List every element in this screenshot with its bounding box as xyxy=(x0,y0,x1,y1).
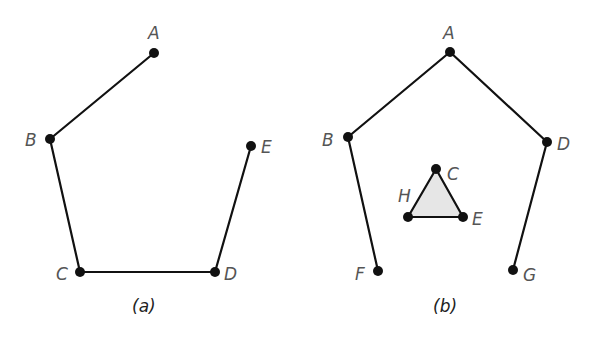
label-b-A: A xyxy=(442,23,455,43)
edge-a-DE xyxy=(215,146,251,272)
edge-a-BC xyxy=(50,139,80,272)
caption-a: (a) xyxy=(132,296,156,316)
node-a-B xyxy=(45,134,55,144)
edge-b-BF xyxy=(348,137,378,271)
edge-b-AD xyxy=(450,52,547,142)
edge-a-AB xyxy=(50,53,154,139)
label-b-G: G xyxy=(523,265,536,285)
label-b-F: F xyxy=(355,264,365,284)
node-b-E xyxy=(458,212,468,222)
caption-b: (b) xyxy=(433,296,457,316)
node-a-A xyxy=(149,48,159,58)
node-b-C xyxy=(431,164,441,174)
graph-figure: A B C D E (a) A B D F G C H E (b) xyxy=(0,0,593,341)
node-b-B xyxy=(343,132,353,142)
node-b-H xyxy=(403,212,413,222)
node-a-E xyxy=(246,141,256,151)
edge-b-AB xyxy=(348,52,450,137)
label-a-C: C xyxy=(56,264,68,284)
label-a-D: D xyxy=(224,264,237,284)
label-b-B: B xyxy=(322,130,334,150)
panel-a: A B C D E (a) xyxy=(25,23,272,316)
label-a-B: B xyxy=(25,130,37,150)
label-b-C: C xyxy=(447,164,459,184)
label-b-D: D xyxy=(557,134,570,154)
node-b-A xyxy=(445,47,455,57)
edge-b-DG xyxy=(513,142,547,270)
label-a-A: A xyxy=(147,23,160,43)
label-b-E: E xyxy=(472,209,483,229)
node-b-G xyxy=(508,265,518,275)
node-b-F xyxy=(373,266,383,276)
label-a-E: E xyxy=(261,137,272,157)
node-a-D xyxy=(210,267,220,277)
node-a-C xyxy=(75,267,85,277)
node-b-D xyxy=(542,137,552,147)
label-b-H: H xyxy=(398,186,411,206)
panel-b: A B D F G C H E (b) xyxy=(322,23,570,316)
